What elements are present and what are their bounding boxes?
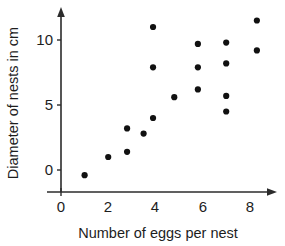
data-point (223, 40, 229, 46)
data-point (124, 149, 130, 155)
data-point (195, 86, 201, 92)
data-points-layer (82, 17, 260, 178)
plot-canvas: 0 5 10 0 2 4 6 8 Number of eggs per nest… (0, 0, 285, 246)
data-point (141, 131, 147, 137)
data-point (171, 94, 177, 100)
data-point (150, 24, 156, 30)
x-tick-label-0: 0 (57, 198, 65, 215)
y-tick-label-5: 5 (45, 96, 53, 113)
x-tick-label-8: 8 (246, 198, 254, 215)
x-axis-arrowhead (267, 188, 277, 196)
data-point (105, 154, 111, 160)
data-point (254, 47, 260, 53)
data-point (195, 64, 201, 70)
data-point (223, 93, 229, 99)
y-axis-title: Diameter of nests in cm (5, 27, 21, 179)
data-point (150, 64, 156, 70)
data-point (82, 172, 88, 178)
data-point (150, 115, 156, 121)
data-point (223, 108, 229, 114)
x-axis-title: Number of eggs per nest (78, 225, 238, 241)
data-point (124, 125, 130, 131)
y-tick-label-10: 10 (36, 31, 53, 48)
x-tick-label-6: 6 (199, 198, 207, 215)
scatter-plot-figure: 0 5 10 0 2 4 6 8 Number of eggs per nest… (0, 0, 285, 246)
x-tick-label-4: 4 (151, 198, 159, 215)
data-point (195, 41, 201, 47)
y-axis-arrowhead (57, 7, 65, 17)
data-point (254, 17, 260, 23)
x-tick-label-2: 2 (104, 198, 112, 215)
y-tick-label-0: 0 (45, 161, 53, 178)
data-point (223, 60, 229, 66)
